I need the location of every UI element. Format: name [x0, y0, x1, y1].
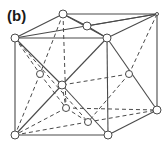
lattice-node-leftmid — [37, 71, 44, 78]
lattice-node-brt — [156, 13, 159, 16]
lattice-node-blt — [59, 10, 67, 18]
dashed-edge — [15, 74, 40, 135]
solid-edge — [15, 38, 62, 85]
solid-edge — [62, 38, 107, 85]
solid-edge — [107, 38, 108, 135]
dashed-edge — [66, 108, 157, 110]
lattice-node-flb — [11, 131, 19, 139]
lattice-node-center — [58, 81, 66, 89]
dashed-edge — [62, 74, 129, 85]
dashed-edge — [88, 74, 129, 122]
crystal-lattice-diagram — [0, 0, 166, 144]
solid-edge — [108, 110, 157, 135]
lattice-node-topmid — [83, 22, 91, 30]
dashed-edge — [129, 14, 157, 74]
dashed-edge — [40, 14, 63, 74]
solid-edge — [87, 14, 157, 26]
dashed-edge — [15, 108, 66, 135]
dashed-edge — [15, 38, 40, 74]
lattice-node-botmid — [85, 119, 92, 126]
lattice-node-brb — [153, 106, 161, 114]
dashed-edge — [88, 110, 157, 122]
lattice-node-rightmid — [126, 71, 133, 78]
solid-edge — [15, 85, 62, 135]
lattice-node-frt_mid — [103, 34, 111, 42]
lattice-node-flt — [11, 34, 19, 42]
dashed-edge — [40, 74, 66, 108]
solid-edge — [107, 14, 157, 38]
lattice-node-backbotmid — [63, 105, 70, 112]
lattice-node-frb — [104, 131, 112, 139]
